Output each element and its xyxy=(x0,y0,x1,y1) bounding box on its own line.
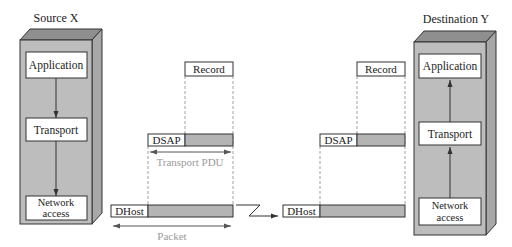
box-top-face xyxy=(20,29,102,40)
lightning-link-arrow-icon xyxy=(236,205,278,216)
destination-host: Destination Y Application Transport Netw… xyxy=(414,12,496,235)
record-label: Record xyxy=(365,63,397,75)
network-label-line1: Network xyxy=(38,197,75,208)
record-label: Record xyxy=(193,63,225,75)
dsap-label: DSAP xyxy=(324,134,352,146)
network-label-line1: Network xyxy=(432,200,469,211)
transport-payload xyxy=(357,134,405,146)
source-host: Source X Application Transport Network a… xyxy=(20,11,102,224)
receiver-decapsulation: Record DSAP DHost xyxy=(283,62,405,217)
network-label-line2: access xyxy=(437,212,464,223)
dhost-label: DHost xyxy=(287,205,316,217)
protocol-diagram: Source X Application Transport Network a… xyxy=(0,0,512,247)
sender-encapsulation: Record DSAP Transport PDU DHost Packet xyxy=(111,62,233,242)
box-top-face xyxy=(414,31,496,42)
dhost-label: DHost xyxy=(115,205,144,217)
network-link xyxy=(236,205,278,216)
dsap-label: DSAP xyxy=(152,134,180,146)
source-title: Source X xyxy=(34,11,79,25)
packet-payload xyxy=(148,205,233,217)
transport-label: Transport xyxy=(428,128,473,141)
transport-label: Transport xyxy=(34,124,79,137)
destination-title: Destination Y xyxy=(423,12,490,26)
box-side-face xyxy=(486,31,496,235)
transport-payload xyxy=(185,134,233,146)
transport-pdu-label: Transport PDU xyxy=(156,156,223,168)
application-label: Application xyxy=(423,60,478,73)
packet-payload xyxy=(320,205,405,217)
application-label: Application xyxy=(29,59,84,72)
network-label-line2: access xyxy=(43,208,70,219)
box-side-face xyxy=(92,29,102,224)
packet-label: Packet xyxy=(157,230,186,242)
